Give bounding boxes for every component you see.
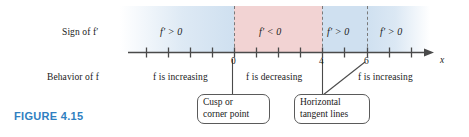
figure-caption: FIGURE 4.15 — [14, 110, 83, 122]
callout-cusp-line-2: corner point — [203, 109, 264, 121]
band-label-sign-1: f′ > 0 — [160, 26, 182, 37]
callout-tangent-line-2: tangent lines — [300, 109, 364, 121]
row-label-behavior-of-f: Behavior of f — [47, 72, 99, 82]
band-label-sign-4: f′ > 0 — [380, 26, 402, 37]
callout-cusp-or-corner-point: Cusp or corner point — [197, 94, 270, 124]
tick-label-4: 4 — [319, 56, 324, 66]
row-label-sign-of-f-prime: Sign of f′ — [62, 27, 98, 37]
callout-cusp-line-1: Cusp or — [203, 97, 264, 109]
callout-tangent-line-1: Horizontal — [300, 97, 364, 109]
band-label-sign-2: f′ < 0 — [259, 26, 281, 37]
callout-horizontal-tangent-lines: Horizontal tangent lines — [294, 94, 370, 124]
behavior-label-3: f is increasing — [358, 72, 413, 82]
tick-label-6: 6 — [364, 56, 369, 66]
figure-4-15: Sign of f′ Behavior of f f′ > 0 f′ < 0 f… — [0, 0, 469, 137]
tick-label-0: 0 — [231, 56, 236, 66]
band-label-sign-3: f′ > 0 — [327, 26, 349, 37]
behavior-label-2: f is decreasing — [246, 72, 302, 82]
axis-variable-label: x — [440, 55, 444, 65]
behavior-label-1: f is increasing — [153, 72, 208, 82]
